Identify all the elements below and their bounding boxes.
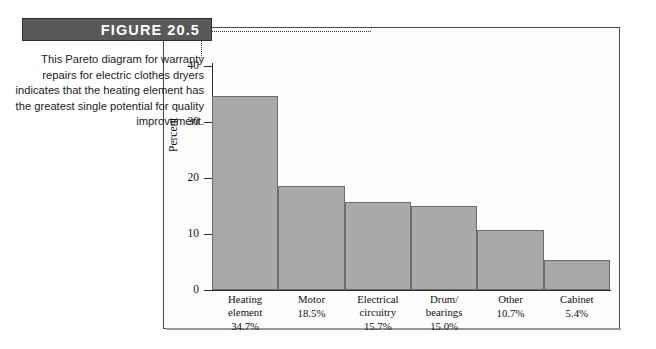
- x-axis-label: Electricalcircuitry15.7%: [345, 293, 411, 334]
- bar: [477, 230, 543, 290]
- bar-slot: [345, 66, 411, 290]
- bar-slot: [212, 66, 278, 290]
- x-axis-label: Motor18.5%: [278, 293, 344, 334]
- x-axis-label-line: bearings: [411, 306, 477, 319]
- bar-series: [212, 66, 610, 290]
- y-axis-tick-label: 0: [193, 283, 199, 295]
- x-axis-label-line: Cabinet: [544, 293, 610, 306]
- x-axis-label-line: Drum/: [411, 293, 477, 306]
- y-axis-title: Percent: [167, 118, 179, 152]
- x-axis-label-line: Electrical: [345, 293, 411, 306]
- x-axis-label-line: Other: [477, 293, 543, 306]
- figure-banner: FIGURE 20.5: [22, 18, 212, 41]
- bar-slot: [278, 66, 344, 290]
- figure-container: FIGURE 20.5 This Pareto diagram for warr…: [0, 0, 656, 349]
- x-axis-label: Heatingelement34.7%: [212, 293, 278, 334]
- x-axis-value-label: 15.0%: [411, 320, 477, 333]
- bar-slot: [544, 66, 610, 290]
- x-axis-value-label: 10.7%: [477, 307, 543, 320]
- x-axis-label-line: circuitry: [345, 306, 411, 319]
- y-axis-tick-label: 30: [188, 115, 200, 127]
- bar: [278, 186, 344, 290]
- bar-slot: [477, 66, 543, 290]
- x-axis-value-label: 15.7%: [345, 320, 411, 333]
- x-axis-label-line: element: [212, 306, 278, 319]
- leader-line-horizontal: [201, 31, 371, 32]
- x-axis-value-label: 18.5%: [278, 307, 344, 320]
- x-axis-value-label: 34.7%: [212, 320, 278, 333]
- y-axis-tick-label: 40: [188, 59, 200, 71]
- x-axis-label: Other10.7%: [477, 293, 543, 334]
- bar: [411, 206, 477, 290]
- y-axis-tick-label: 10: [188, 227, 200, 239]
- x-axis-label-line: Motor: [278, 293, 344, 306]
- bar-slot: [411, 66, 477, 290]
- y-axis-tick: 0: [204, 290, 213, 291]
- bar: [212, 96, 278, 290]
- x-axis-line: [212, 290, 611, 291]
- x-axis-label-line: Heating: [212, 293, 278, 306]
- figure-banner-label: FIGURE 20.5: [101, 22, 200, 38]
- y-axis-tick-label: 20: [188, 171, 200, 183]
- x-axis-labels: Heatingelement34.7%Motor18.5%Electricalc…: [212, 293, 610, 334]
- x-axis-label: Drum/bearings15.0%: [411, 293, 477, 334]
- x-axis-value-label: 5.4%: [544, 307, 610, 320]
- x-axis-label: Cabinet5.4%: [544, 293, 610, 334]
- bar: [345, 202, 411, 290]
- bar: [544, 260, 610, 290]
